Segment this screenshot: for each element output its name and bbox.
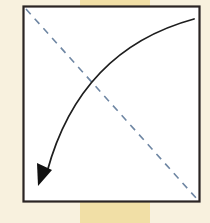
fold-diagram xyxy=(0,0,210,223)
